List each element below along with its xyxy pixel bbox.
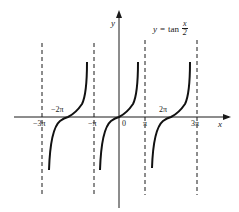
x-axis-arrow-icon xyxy=(223,114,231,120)
curve-branch-1 xyxy=(49,62,87,170)
tick-pi: π xyxy=(143,120,147,128)
y-axis-arrow-icon xyxy=(116,10,122,18)
tan-half-x-plot xyxy=(0,0,239,212)
x-axis-label: x xyxy=(218,120,222,129)
tick-neg-pi: −π xyxy=(88,120,97,128)
curve-branch-3 xyxy=(152,62,190,168)
tick-neg-3pi: −3π xyxy=(33,120,46,128)
tick-3pi: 3π xyxy=(191,120,199,128)
tick-zero: 0 xyxy=(122,120,126,128)
fraction: x 2 xyxy=(182,20,188,37)
chart-title: y = tan x 2 xyxy=(153,20,188,37)
tick-neg-2pi: −2π xyxy=(51,106,64,114)
y-axis-label: y xyxy=(111,19,115,28)
tick-2pi: 2π xyxy=(159,106,167,114)
